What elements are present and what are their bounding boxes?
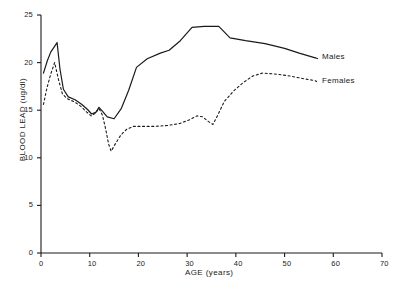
series-label-males: Males [322, 52, 345, 61]
chart-plot-area [0, 0, 401, 289]
x-axis-tick-label: 10 [88, 259, 97, 268]
blood-lead-by-age-chart: 0510152025 010203040506070 BLOOD LEAD (u… [0, 0, 401, 289]
x-axis-title: AGE (years) [185, 268, 233, 277]
series-leader-females [315, 81, 318, 83]
x-axis-ticks [41, 253, 382, 257]
y-axis-tick-label: 5 [1, 200, 33, 209]
series-line-males [43, 26, 315, 118]
x-axis-tick-label: 20 [136, 259, 145, 268]
x-axis-tick-label: 30 [185, 259, 194, 268]
x-axis-tick-label: 0 [39, 259, 43, 268]
y-axis-tick-label: 0 [1, 248, 33, 257]
series-label-females: Females [322, 76, 355, 85]
y-axis-title: BLOOD LEAD (ug/dl) [18, 50, 27, 190]
chart-series-group [43, 26, 318, 151]
x-axis-tick-label: 70 [380, 259, 389, 268]
x-axis-tick-label: 60 [331, 259, 340, 268]
y-axis-ticks [37, 15, 41, 253]
series-leader-males [315, 58, 318, 59]
chart-axes [41, 15, 382, 253]
y-axis-tick-label: 25 [1, 10, 33, 19]
x-axis-tick-label: 50 [283, 259, 292, 268]
x-axis-tick-label: 40 [234, 259, 243, 268]
